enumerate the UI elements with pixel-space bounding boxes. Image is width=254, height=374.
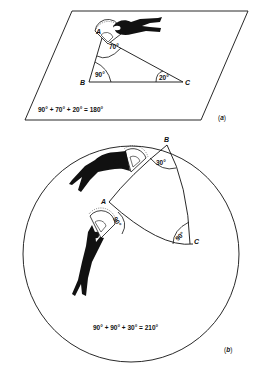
figure-a: A B C 70° 90° 20° 90° + 70° + 20° = 180°…	[25, 11, 248, 122]
caption-a: (a)	[218, 114, 226, 122]
vertex-label-b: B	[164, 136, 169, 143]
angle-label-c: 20°	[159, 74, 169, 81]
angle-label-c: 90°	[174, 230, 186, 242]
vertex-label-b: B	[80, 79, 85, 86]
angle-label-a: 70°	[109, 43, 119, 50]
diagram-canvas: A B C 70° 90° 20° 90° + 70° + 20° = 180°…	[0, 0, 254, 374]
angle-label-b: 90°	[95, 71, 105, 78]
vertex-label-c: C	[185, 79, 191, 86]
vertex-label-c: C	[194, 238, 200, 245]
person-silhouette-icon	[72, 225, 104, 296]
equation-plane: 90° + 70° + 20° = 180°	[38, 106, 104, 113]
caption-b: (b)	[224, 346, 232, 354]
vertex-label-a: A	[95, 28, 101, 35]
person-silhouette-icon	[69, 151, 130, 192]
angle-label-b: 30°	[156, 159, 166, 166]
figure-b: B A C 30° 90° 90° 90° + 90° + 30° = 210°…	[23, 136, 239, 362]
vertex-label-a: A	[100, 198, 106, 205]
equation-sphere: 90° + 90° + 30° = 210°	[93, 324, 159, 331]
person-silhouette-icon	[113, 17, 162, 35]
